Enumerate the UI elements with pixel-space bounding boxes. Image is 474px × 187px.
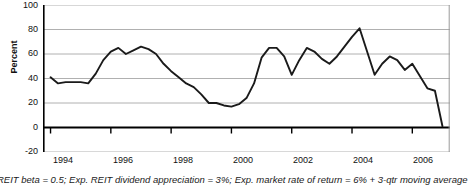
- x-axis-tick-labels: 1994 1996 1998 2000 2002 2004 2006: [0, 155, 474, 169]
- y-tick-label: 60: [8, 49, 38, 58]
- x-tick-label: 1994: [53, 155, 73, 165]
- y-axis-tick-labels: 100 80 60 40 20 0 -20: [4, 0, 38, 160]
- y-tick-label: 20: [8, 98, 38, 107]
- x-tick-label: 2000: [233, 155, 253, 165]
- y-tick-label: 80: [8, 25, 38, 34]
- y-tick-label: 40: [8, 74, 38, 83]
- plot-area: [43, 5, 450, 152]
- figure-caption: REIT beta = 0.5; Exp. REIT dividend appr…: [0, 174, 474, 185]
- x-tick-label: 1996: [113, 155, 133, 165]
- y-tick-label: 100: [8, 1, 38, 10]
- x-tick-label: 2002: [293, 155, 313, 165]
- line-chart-svg: [43, 5, 450, 152]
- x-tick-label: 1998: [173, 155, 193, 165]
- chart-figure: Percent 100 80 60 40 20 0 -20 1994 1996 …: [0, 0, 474, 187]
- x-tick-label: 2004: [353, 155, 373, 165]
- data-series-line: [51, 28, 443, 126]
- y-tick-label: 0: [8, 123, 38, 132]
- x-tick-label: 2006: [413, 155, 433, 165]
- gridlines: [43, 5, 450, 152]
